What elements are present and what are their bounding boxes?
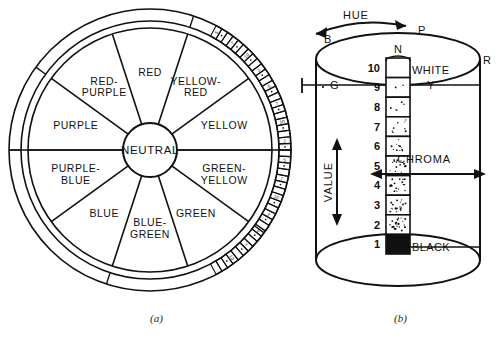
chroma-scale-dot xyxy=(280,184,282,186)
value-stipple-dot xyxy=(396,211,397,212)
value-stipple-dot xyxy=(401,101,403,103)
hue-label-n: N xyxy=(394,43,402,55)
value-stipple-dot xyxy=(400,217,401,218)
value-stipple-dot xyxy=(393,149,394,150)
value-number: 4 xyxy=(374,179,381,191)
chroma-scale-segment xyxy=(279,150,291,157)
value-stipple-dot xyxy=(394,228,395,229)
value-stipple-dot xyxy=(391,178,393,180)
white-label: WHITE xyxy=(412,64,449,76)
caption-b: (b) xyxy=(394,312,407,324)
value-stipple-dot xyxy=(389,170,390,171)
value-stipple-dot xyxy=(391,208,392,209)
value-stipple-dot xyxy=(402,85,404,87)
chroma-scale-dot xyxy=(271,91,273,93)
hue-label-p: P xyxy=(418,24,425,36)
value-number: 3 xyxy=(374,199,380,211)
value-stipple-dot xyxy=(399,226,400,227)
value-stipple-dot xyxy=(392,208,393,209)
value-stipple-dot xyxy=(404,224,405,225)
wheel-sector-label: GREEN xyxy=(176,207,216,219)
value-stipple-dot xyxy=(397,219,399,221)
value-stipple-dot xyxy=(394,182,396,184)
chroma-scale-dot xyxy=(221,35,223,37)
value-stipple-dot xyxy=(401,207,402,208)
munsell-color-wheel: 5710257102571025710 REDYELLOW-REDYELLOWG… xyxy=(0,2,300,312)
value-stipple-dot xyxy=(395,166,397,168)
value-step xyxy=(386,78,410,98)
value-stipple-dot xyxy=(402,221,403,222)
value-stipple-dot xyxy=(397,122,399,124)
wheel-sector-label: YELLOW xyxy=(201,119,248,131)
value-stipple-dot xyxy=(404,121,405,122)
munsell-color-solid: HUE 10987654321 VALUE CHRO xyxy=(296,2,501,312)
value-stipple-dot xyxy=(395,171,396,172)
value-stipple-dot xyxy=(404,190,406,192)
value-stipple-dot xyxy=(389,224,391,226)
value-stipple-dot xyxy=(404,165,406,167)
value-stipple-dot xyxy=(395,222,397,224)
value-stipple-dot xyxy=(400,202,401,203)
value-stipple-dot xyxy=(401,199,402,200)
value-step xyxy=(386,58,410,78)
value-stipple-dot xyxy=(399,178,401,180)
chroma-scale-segment xyxy=(211,261,222,275)
wheel-sector-label: GREEN-YELLOW xyxy=(201,162,248,186)
chroma-scale-dot xyxy=(283,165,285,167)
g-marker-dot xyxy=(322,86,324,88)
chroma-scale-dot xyxy=(282,127,284,129)
value-stipple-dot xyxy=(401,230,403,232)
value-stipple-dot xyxy=(398,139,399,140)
wheel-sector-label: BLUE-GREEN xyxy=(130,216,170,240)
value-stipple-dot xyxy=(398,217,399,218)
chroma-label: CHROMA xyxy=(397,153,451,165)
value-number: 10 xyxy=(368,62,380,74)
chroma-scale-number: 5 xyxy=(283,157,286,162)
value-stipple-dot xyxy=(401,172,402,173)
hue-label-b: B xyxy=(324,33,331,45)
value-scale-numbers: 10987654321 xyxy=(368,62,381,250)
value-stipple-dot xyxy=(391,220,393,222)
black-label: BLACK xyxy=(412,241,450,253)
value-stipple-dot xyxy=(405,119,406,120)
value-stipple-dot xyxy=(405,130,407,132)
wheel-sector-label: YELLOW-RED xyxy=(171,75,222,99)
value-stipple-dot xyxy=(401,147,402,148)
value-stipple-dot xyxy=(399,206,401,208)
value-stipple-dot xyxy=(389,185,391,187)
value-stipple-dot xyxy=(397,226,398,227)
chroma-scale-dot xyxy=(261,74,263,76)
caption-a: (a) xyxy=(150,312,163,324)
value-stipple-dot xyxy=(392,204,394,206)
value-stipple-dot xyxy=(394,191,395,192)
chroma-scale-dot xyxy=(236,46,238,48)
wheel-sector-label: PURPLE xyxy=(53,119,98,131)
value-stipple-dot xyxy=(395,109,396,110)
value-stipple-dot xyxy=(393,160,395,162)
chroma-scale-dot xyxy=(284,146,286,148)
chroma-scale-number: 2 xyxy=(283,138,286,143)
value-stipple-dot xyxy=(402,150,403,151)
value-stipple-dot xyxy=(396,144,397,145)
wheel-sector-label: RED-PURPLE xyxy=(82,75,127,99)
value-stipple-dot xyxy=(397,223,399,225)
value-number: 1 xyxy=(374,238,380,250)
value-stipple-dot xyxy=(392,130,393,131)
value-stipple-dot xyxy=(396,149,398,151)
chroma-scale-dot xyxy=(265,219,267,221)
value-number: 2 xyxy=(374,219,380,231)
chroma-scale-dot xyxy=(226,260,228,262)
wheel-band-divider xyxy=(36,67,46,74)
value-stipple-dot xyxy=(403,184,404,185)
value-stipple-dot xyxy=(399,150,400,151)
value-step xyxy=(386,97,410,117)
value-stipple-dot xyxy=(393,226,395,228)
value-label: VALUE xyxy=(322,162,334,202)
hue-label-y: Y xyxy=(427,79,435,91)
value-stipple-dot xyxy=(390,202,392,204)
value-stipple-dot xyxy=(398,145,400,147)
value-number: 7 xyxy=(374,121,380,133)
value-stipple-dot xyxy=(404,184,406,186)
value-stipple-dot xyxy=(396,190,397,191)
value-stipple-dot xyxy=(393,159,394,160)
